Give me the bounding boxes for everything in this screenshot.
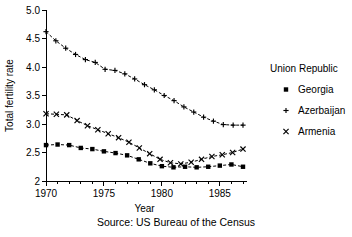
y-tick-label: 3.5 [26,90,40,101]
legend-label: Azerbaijan [298,105,345,116]
y-tick-label: 5.0 [26,5,40,16]
data-point-marker [229,162,233,166]
y-tick-group: 22.53.03.54.04.55.0 [26,5,46,187]
cross-marker-icon [283,129,288,134]
data-point-marker [102,149,106,153]
y-tick-label: 4.5 [26,33,40,44]
data-point-marker [113,151,117,155]
data-point-marker [67,143,71,147]
series-line-azerbaijan [46,32,243,125]
x-tick-label: 1970 [35,188,58,199]
data-point-marker [55,142,59,146]
y-tick-label: 4.0 [26,62,40,73]
source-note: Source: US Bureau of the Census [0,216,352,228]
series-azerbaijan [43,29,245,128]
y-axis-title: Total fertility rate [4,59,15,132]
x-tick-group: 1970197519801985 [35,181,243,199]
data-point-marker [148,161,152,165]
series-line-georgia [46,145,243,168]
plus-marker-icon [283,108,288,113]
square-marker-icon [284,87,288,91]
y-tick-label: 2.5 [26,147,40,158]
legend-label: Georgia [298,84,334,95]
fertility-rate-line-chart: 22.53.03.54.04.55.01970197519801985YearT… [0,0,352,237]
legend-label: Armenia [298,126,336,137]
series-armenia [43,111,245,166]
data-point-marker [171,165,175,169]
data-point-marker [218,163,222,167]
x-tick-label: 1975 [93,188,116,199]
data-point-marker [90,147,94,151]
legend-title: Union Republic [270,63,338,74]
data-point-marker [79,146,83,150]
y-tick-label: 3.0 [26,119,40,130]
x-tick-label: 1985 [209,188,232,199]
legend: Union RepublicGeorgiaAzerbaijanArmenia [270,63,345,137]
data-point-marker [284,87,288,91]
data-point-marker [125,153,129,157]
data-point-marker [44,143,48,147]
data-point-marker [137,157,141,161]
x-tick-label: 1980 [151,188,174,199]
data-point-marker [183,165,187,169]
data-point-marker [160,164,164,168]
y-tick-label: 2 [34,176,40,187]
x-axis-title: Year [134,203,155,214]
data-point-marker [241,165,245,169]
data-point-marker [206,165,210,169]
figure-container: 22.53.03.54.04.55.01970197519801985YearT… [0,0,352,237]
data-point-marker [194,165,198,169]
